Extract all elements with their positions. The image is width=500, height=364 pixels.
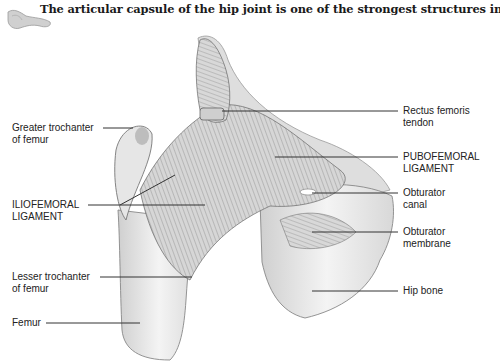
- label-pubofemoral-ligament: PUBOFEMORAL LIGAMENT: [403, 151, 480, 175]
- hip-joint-illustration: [0, 0, 500, 364]
- label-line: of femur: [12, 283, 90, 295]
- label-line: Obturator: [403, 187, 445, 199]
- label-line: membrane: [403, 238, 451, 250]
- label-line: ILIOFEMORAL: [12, 199, 79, 211]
- label-line: canal: [403, 199, 445, 211]
- label-line: LIGAMENT: [403, 163, 480, 175]
- label-line: tendon: [403, 117, 470, 129]
- label-line: Greater trochanter: [12, 122, 94, 134]
- label-femur: Femur: [12, 317, 41, 329]
- label-greater-trochanter: Greater trochanter of femur: [12, 122, 94, 146]
- label-line: LIGAMENT: [12, 211, 79, 223]
- label-line: Lesser trochanter: [12, 271, 90, 283]
- label-rectus-femoris-tendon: Rectus femoris tendon: [403, 105, 470, 129]
- label-iliofemoral-ligament: ILIOFEMORAL LIGAMENT: [12, 199, 79, 223]
- label-line: Hip bone: [403, 285, 443, 297]
- label-lesser-trochanter: Lesser trochanter of femur: [12, 271, 90, 295]
- label-obturator-canal: Obturator canal: [403, 187, 445, 211]
- label-line: Obturator: [403, 226, 451, 238]
- label-obturator-membrane: Obturator membrane: [403, 226, 451, 250]
- label-line: Femur: [12, 317, 41, 329]
- label-line: Rectus femoris: [403, 105, 470, 117]
- label-line: PUBOFEMORAL: [403, 151, 480, 163]
- label-hip-bone: Hip bone: [403, 285, 443, 297]
- label-line: of femur: [12, 134, 94, 146]
